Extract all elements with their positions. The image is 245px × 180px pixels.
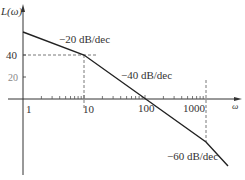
- y-tick-label-40: 40: [6, 49, 18, 61]
- x-tick-label-100: 100: [138, 102, 155, 114]
- x-tick-label-1: 1: [26, 103, 32, 115]
- slope-label-60: −60 dB/dec: [167, 150, 218, 162]
- bode-plot: L(ω) ω 40 20 1 10 100 1000 −20 dB/dec −4…: [0, 0, 245, 180]
- x-tick-label-10: 10: [83, 103, 95, 115]
- x-axis-ticks: [41, 95, 203, 99]
- y-tick-label-20: 20: [8, 72, 18, 83]
- y-axis-label: L(ω): [0, 5, 23, 18]
- x-tick-label-1000: 1000: [183, 102, 206, 114]
- slope-label-20: −20 dB/dec: [59, 33, 110, 45]
- x-axis-label: ω: [232, 101, 238, 111]
- slope-label-40: −40 dB/dec: [121, 69, 172, 81]
